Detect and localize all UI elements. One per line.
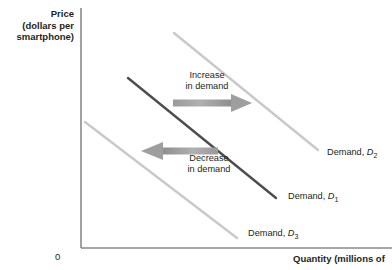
axis-lines: [81, 8, 392, 248]
demand-shift-figure: Price (dollars per smartphone) Quantity …: [0, 0, 392, 270]
curve-label-d2: Demand, D2: [327, 147, 377, 161]
curve-label-d3-subscript: 3: [294, 233, 298, 240]
curve-label-d2-subscript: 2: [373, 152, 377, 159]
curve-label-d3: Demand, D3: [248, 228, 298, 242]
curve-label-d1-text: Demand,: [288, 191, 328, 201]
curve-demand-d1: [128, 78, 276, 198]
origin-label: 0: [55, 252, 60, 263]
increase-in-demand-arrow: [173, 94, 252, 112]
curve-demand-d3: [85, 122, 237, 238]
increase-in-demand-label: Increase in demand: [168, 70, 246, 92]
curve-label-d3-text: Demand,: [248, 228, 288, 238]
curve-label-d1-subscript: 1: [334, 196, 338, 203]
y-axis-title: Price (dollars per smartphone): [0, 8, 74, 43]
demand-curves: [85, 33, 318, 238]
curve-label-d2-text: Demand,: [327, 147, 367, 157]
curve-label-d1: Demand, D1: [288, 191, 338, 205]
x-axis-title: Quantity (millions of: [293, 254, 385, 265]
decrease-in-demand-label: Decrease in demand: [170, 153, 248, 175]
